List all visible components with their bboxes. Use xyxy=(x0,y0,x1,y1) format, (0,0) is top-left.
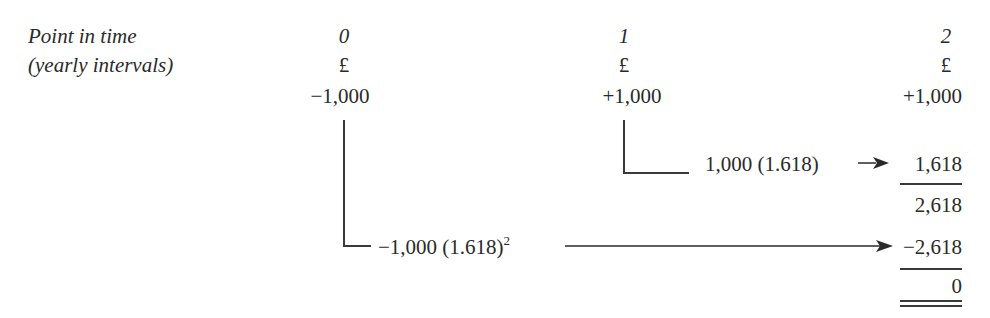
year1-arrow-icon xyxy=(858,157,889,169)
compounded-year0-value: −2,618 xyxy=(903,237,962,258)
double-underline-top xyxy=(900,300,962,302)
underline-1 xyxy=(900,183,962,185)
year0-arrow-icon xyxy=(565,240,893,252)
arrows-layer xyxy=(0,0,990,318)
total-value: 0 xyxy=(952,276,963,297)
underline-2 xyxy=(900,268,962,270)
double-underline-bottom xyxy=(900,305,962,307)
compounded-year1-value: 1,618 xyxy=(915,154,962,175)
subtotal-value: 2,618 xyxy=(915,195,962,216)
